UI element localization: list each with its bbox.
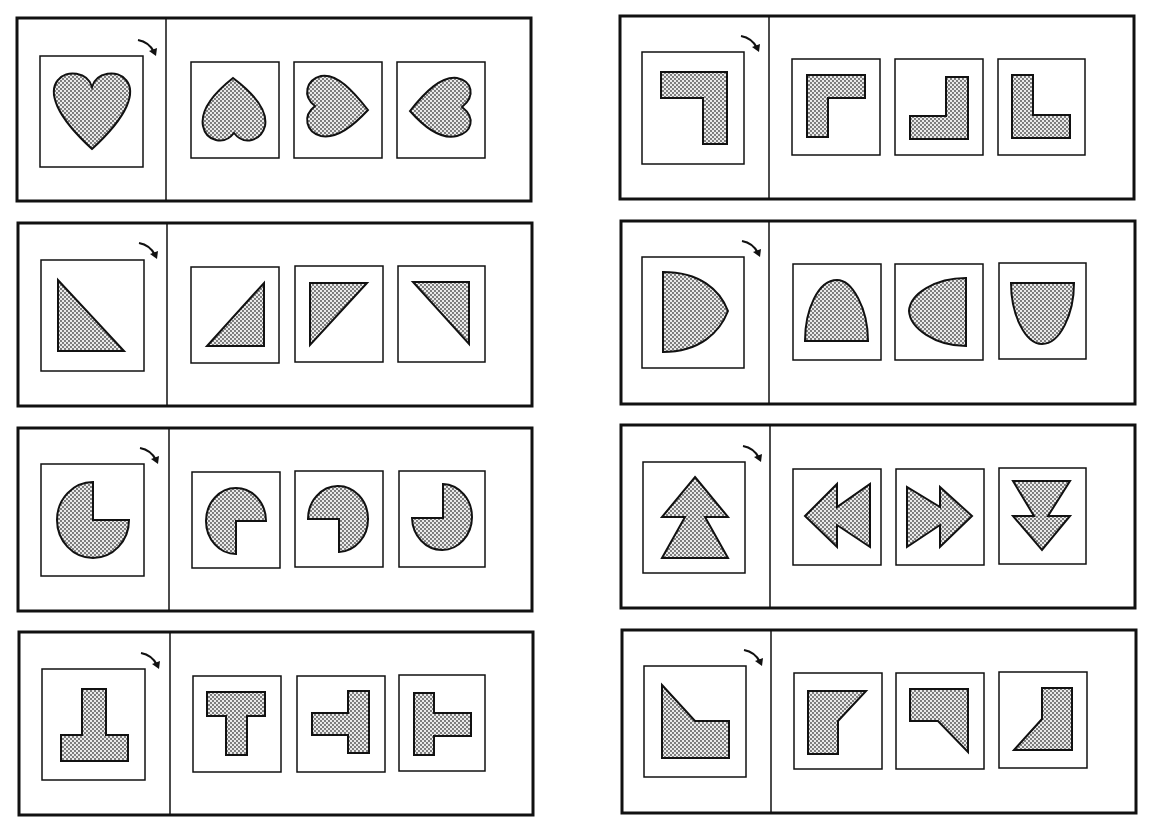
target-shape — [644, 666, 746, 777]
choice-b[interactable] — [295, 471, 383, 567]
choice-a[interactable] — [191, 62, 279, 158]
choice-c[interactable] — [399, 471, 485, 567]
rotate-clockwise-icon — [742, 241, 761, 257]
puzzle-7 — [621, 425, 1135, 608]
t-shape-icon — [61, 689, 128, 761]
puzzle-1 — [17, 18, 531, 201]
chamfered-block-icon — [662, 685, 729, 758]
choice-b[interactable] — [295, 266, 383, 362]
rotate-clockwise-icon — [140, 448, 159, 464]
choice-c[interactable] — [998, 59, 1085, 155]
choice-c[interactable] — [399, 675, 485, 771]
choice-a[interactable] — [793, 469, 881, 565]
choice-a[interactable] — [192, 472, 280, 568]
choice-b[interactable] — [895, 59, 983, 155]
double-arrow-up-icon — [662, 477, 728, 558]
choice-b[interactable] — [896, 469, 984, 565]
target-shape — [643, 462, 745, 573]
target-shape — [42, 669, 145, 780]
choice-c[interactable] — [999, 672, 1087, 768]
choice-c[interactable] — [397, 62, 485, 158]
choice-c[interactable] — [999, 468, 1086, 564]
choice-a[interactable] — [792, 59, 880, 155]
rotate-clockwise-icon — [138, 40, 157, 56]
puzzle-3 — [18, 428, 532, 611]
puzzle-5 — [620, 16, 1134, 199]
rotate-clockwise-icon — [741, 36, 760, 52]
target-shape — [642, 52, 744, 164]
triangle-icon — [58, 280, 124, 351]
notched-circle-icon — [57, 482, 129, 558]
choice-b[interactable] — [896, 673, 984, 769]
puzzle-2 — [18, 223, 532, 406]
choice-c[interactable] — [999, 263, 1086, 359]
rotate-clockwise-icon — [139, 243, 158, 259]
choice-b[interactable] — [294, 62, 382, 158]
puzzle-8 — [622, 630, 1136, 813]
choice-b[interactable] — [895, 264, 983, 360]
heart-icon — [54, 73, 130, 149]
rotate-clockwise-icon — [141, 653, 160, 669]
puzzle-4 — [19, 632, 533, 815]
target-shape — [642, 257, 744, 368]
choice-a[interactable] — [794, 673, 882, 769]
target-shape — [41, 464, 144, 576]
choice-b[interactable] — [297, 676, 385, 772]
l-shape-icon — [661, 72, 727, 144]
choice-c[interactable] — [398, 266, 485, 362]
rotate-clockwise-icon — [744, 650, 763, 666]
choice-a[interactable] — [191, 267, 279, 363]
choice-a[interactable] — [793, 264, 881, 360]
rotation-worksheet — [0, 0, 1150, 833]
target-shape — [41, 260, 144, 371]
rotate-clockwise-icon — [743, 446, 762, 462]
dome-icon — [663, 272, 728, 352]
target-shape — [40, 56, 143, 167]
choice-a[interactable] — [193, 676, 281, 772]
puzzle-6 — [621, 221, 1135, 404]
